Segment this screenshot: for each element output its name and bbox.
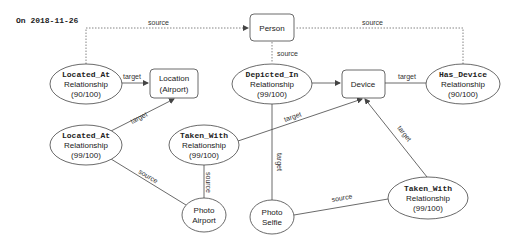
node-taken-with-2[interactable]: Taken_With Relationship (99/100) (388, 177, 468, 219)
edge-label-target: target (398, 73, 416, 81)
edge-taken-with-2-to-photo-selfie: source (294, 192, 388, 215)
edge-label-source: source (331, 192, 353, 203)
edge-label-target: target (123, 73, 141, 81)
node-photo-airport[interactable]: Photo Airport (182, 198, 226, 232)
relationship-score: (99/100) (413, 204, 443, 213)
location-sublabel: (Airport) (160, 85, 189, 94)
relationship-type: Taken_With (180, 131, 228, 140)
edge-has-device-to-person: source (295, 19, 463, 64)
photo-airport-sublabel: Airport (192, 216, 216, 225)
relationship-kind: Relationship (406, 194, 451, 203)
relationship-kind: Relationship (441, 80, 486, 89)
edge-located-at-1-to-person: source (86, 19, 248, 64)
relationship-type: Taken_With (404, 184, 452, 193)
relationship-diagram: source source source target target targe… (0, 0, 513, 239)
edge-located-at-2-to-photo-airport: source (111, 159, 186, 205)
relationship-type: Depicted_In (246, 70, 299, 79)
relationship-score: (90/100) (71, 90, 101, 99)
node-located-at-1[interactable]: Located_At Relationship (90/100) (50, 64, 122, 104)
edge-taken-with-1-to-device: target (238, 99, 362, 141)
relationship-kind: Relationship (64, 80, 109, 89)
relationship-kind: Relationship (250, 80, 295, 89)
edge-depicted-in-to-person: source (272, 42, 298, 63)
node-depicted-in[interactable]: Depicted_In Relationship (99/100) (232, 64, 312, 104)
relationship-score: (99/100) (257, 90, 287, 99)
node-taken-with-1[interactable]: Taken_With Relationship (99/100) (169, 125, 239, 165)
edge-label-source: source (277, 50, 298, 57)
relationship-score: (99/100) (189, 151, 219, 160)
photo-airport-label: Photo (194, 206, 215, 215)
relationship-type: Located_At (62, 131, 110, 140)
relationship-score: (99/100) (71, 151, 101, 160)
edge-label-source: source (362, 19, 383, 26)
edge-taken-with-1-to-photo-airport: source (204, 165, 212, 198)
edge-depicted-in-to-photo-selfie: target (272, 103, 283, 200)
edge-label-source: source (148, 19, 169, 26)
relationship-score: (90/100) (448, 90, 478, 99)
relationship-type: Located_At (62, 70, 110, 79)
photo-selfie-sublabel: Selfie (262, 218, 283, 227)
device-label: Device (351, 80, 376, 89)
node-photo-selfie[interactable]: Photo Selfie (250, 200, 294, 234)
edge-taken-with-2-to-device: target (365, 99, 427, 177)
node-has-device[interactable]: Has_Device Relationship (90/100) (426, 64, 500, 104)
node-device[interactable]: Device (342, 70, 385, 98)
edge-label-target: target (129, 111, 149, 126)
person-label: Person (259, 24, 284, 33)
photo-selfie-label: Photo (262, 208, 283, 217)
edge-label-target: target (275, 153, 283, 171)
relationship-kind: Relationship (64, 141, 109, 150)
node-located-at-2[interactable]: Located_At Relationship (99/100) (50, 125, 122, 165)
edge-label-target: target (283, 110, 303, 123)
edge-has-device-to-device: target (385, 73, 426, 83)
edge-located-at-2-to-location: target (111, 99, 174, 131)
relationship-type: Has_Device (439, 70, 487, 79)
relationship-kind: Relationship (182, 141, 227, 150)
edge-label-source: source (205, 172, 212, 193)
location-label: Location (159, 74, 189, 83)
node-location[interactable]: Location (Airport) (150, 69, 198, 98)
edge-located-at-1-to-location: target (121, 73, 148, 83)
node-person[interactable]: Person (250, 14, 294, 41)
